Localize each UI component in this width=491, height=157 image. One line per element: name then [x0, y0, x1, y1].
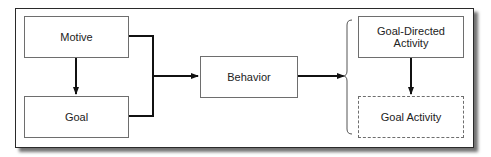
node-goal-label: Goal — [65, 111, 88, 123]
node-goal: Goal — [24, 96, 129, 138]
node-motive: Motive — [24, 16, 129, 58]
node-goal-directed-activity: Goal-Directed Activity — [358, 16, 464, 58]
node-goal-activity: Goal Activity — [358, 96, 464, 138]
bracket-motive-goal — [128, 36, 153, 116]
node-behavior: Behavior — [200, 56, 298, 98]
node-goal-activity-label: Goal Activity — [381, 111, 442, 123]
node-motive-label: Motive — [60, 31, 92, 43]
node-behavior-label: Behavior — [227, 71, 270, 83]
node-goal-directed-activity-label: Goal-Directed Activity — [371, 25, 451, 49]
curly-brace — [343, 20, 352, 134]
